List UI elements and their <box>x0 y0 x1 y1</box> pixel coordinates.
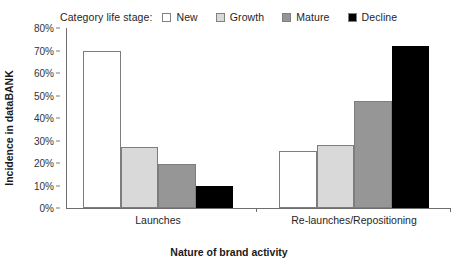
plot-area: LaunchesRe-launches/Repositioning <box>66 28 451 209</box>
bars-container <box>67 28 451 208</box>
legend-entry-new: New <box>162 11 197 23</box>
y-axis-ticks: 0%10%20%30%40%50%60%70%80% <box>22 28 60 208</box>
y-tick-label: 40% <box>34 113 54 124</box>
bar <box>121 147 159 208</box>
x-axis-end-tick <box>450 208 451 212</box>
y-tick-label: 60% <box>34 68 54 79</box>
legend-entry-growth: Growth <box>216 11 264 23</box>
legend-entry-mature: Mature <box>282 11 329 23</box>
plot-wrapper: 0%10%20%30%40%50%60%70%80% LaunchesRe-la… <box>22 28 450 218</box>
bar-chart: Category life stage: New Growth Mature D… <box>0 0 458 274</box>
y-tick-mark <box>56 73 60 74</box>
y-axis-title: Incidence in dataBANK <box>0 0 18 274</box>
y-tick-label: 50% <box>34 90 54 101</box>
y-tick-mark <box>56 28 60 29</box>
bar <box>279 151 317 208</box>
y-tick-label: 30% <box>34 135 54 146</box>
y-tick-label: 80% <box>34 23 54 34</box>
y-tick-mark <box>56 50 60 51</box>
y-tick-mark <box>56 118 60 119</box>
y-tick-mark <box>56 163 60 164</box>
legend-label-decline: Decline <box>362 11 398 23</box>
legend-label-new: New <box>176 11 197 23</box>
y-tick-label: 0% <box>40 203 54 214</box>
y-tick-mark <box>56 140 60 141</box>
y-tick-label: 70% <box>34 45 54 56</box>
chart-legend: Category life stage: New Growth Mature D… <box>60 9 397 25</box>
legend-swatch-new <box>162 13 171 22</box>
bar <box>354 101 392 208</box>
y-tick-mark <box>56 185 60 186</box>
bar <box>317 145 355 208</box>
legend-label-mature: Mature <box>296 11 329 23</box>
y-tick-label: 20% <box>34 158 54 169</box>
y-tick-mark <box>56 208 60 209</box>
bar <box>158 164 196 208</box>
legend-swatch-mature <box>282 13 291 22</box>
x-group-label: Re-launches/Repositioning <box>291 214 417 226</box>
legend-swatch-decline <box>348 13 357 22</box>
x-group-label: Launches <box>135 214 181 226</box>
x-category-divider-tick <box>256 208 257 212</box>
y-tick-mark <box>56 95 60 96</box>
bar <box>83 51 121 209</box>
legend-title: Category life stage: <box>60 11 152 23</box>
legend-swatch-growth <box>216 13 225 22</box>
y-tick-label: 10% <box>34 180 54 191</box>
bar <box>392 46 430 208</box>
legend-entry-decline: Decline <box>348 11 398 23</box>
x-axis-title: Nature of brand activity <box>0 246 458 258</box>
legend-label-growth: Growth <box>230 11 264 23</box>
y-axis-title-text: Incidence in dataBANK <box>3 70 15 186</box>
bar <box>196 186 234 209</box>
